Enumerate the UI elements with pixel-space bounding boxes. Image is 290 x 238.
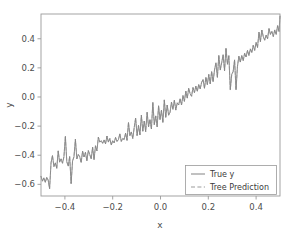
y-tick-label: −0.4 bbox=[14, 150, 35, 160]
chart-svg: −0.4−0.20.00.20.4 −0.6−0.4−0.20.00.20.4 … bbox=[0, 0, 290, 238]
legend-label-true-y: True y bbox=[209, 170, 235, 179]
y-tick-label: 0.4 bbox=[21, 34, 35, 44]
x-tick-label: 0.0 bbox=[154, 202, 168, 212]
y-axis-title: y bbox=[4, 102, 14, 108]
x-axis-tick-labels: −0.4−0.20.00.20.4 bbox=[55, 202, 263, 212]
y-axis-tick-marks bbox=[38, 39, 42, 185]
y-tick-label: 0.0 bbox=[21, 92, 35, 102]
figure-canvas: −0.4−0.20.00.20.4 −0.6−0.4−0.20.00.20.4 … bbox=[0, 0, 290, 238]
x-tick-label: 0.2 bbox=[202, 202, 216, 212]
y-tick-label: −0.2 bbox=[14, 121, 35, 131]
y-tick-label: −0.6 bbox=[14, 179, 35, 189]
x-tick-label: 0.4 bbox=[249, 202, 263, 212]
x-axis-tick-marks bbox=[65, 196, 256, 200]
y-axis-tick-labels: −0.6−0.4−0.20.00.20.4 bbox=[14, 34, 35, 190]
legend-label-tree-prediction: Tree Prediction bbox=[209, 183, 269, 192]
x-tick-label: −0.2 bbox=[102, 202, 123, 212]
y-tick-label: 0.2 bbox=[21, 63, 35, 73]
x-tick-label: −0.4 bbox=[55, 202, 76, 212]
legend[interactable]: True y Tree Prediction bbox=[186, 166, 277, 195]
x-axis-title: x bbox=[157, 220, 163, 230]
